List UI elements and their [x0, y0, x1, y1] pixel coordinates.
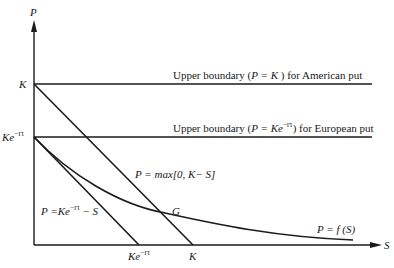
put-value-label: P = f (S) [316, 223, 355, 236]
intrinsic-value-line [34, 84, 193, 245]
y-tick-ke: Ke−rτ [1, 129, 24, 143]
x-tick-ke: Ke−rτ [127, 248, 150, 262]
put-price-bounds-diagram: P S K Ke−rτ Ke−rτ K Upper boundary (P = … [0, 0, 394, 268]
european-boundary-label: Upper boundary (P = Ke−rτ) for European … [173, 120, 374, 135]
intrinsic-value-label: P = max[0, K− S] [134, 168, 215, 180]
put-value-curve [34, 137, 353, 240]
x-axis-label: S [384, 239, 390, 251]
american-boundary-label: Upper boundary (P = K ) for American put [173, 69, 362, 82]
x-tick-k: K [188, 250, 197, 262]
y-tick-k: K [18, 78, 27, 90]
x-axis-arrow-icon [370, 242, 382, 248]
y-axis-arrow-icon [31, 20, 37, 32]
lower-bound-label: P =Ke−rτ − S [40, 203, 99, 217]
point-g-label: G [172, 205, 180, 217]
y-axis-label: P [29, 6, 37, 18]
